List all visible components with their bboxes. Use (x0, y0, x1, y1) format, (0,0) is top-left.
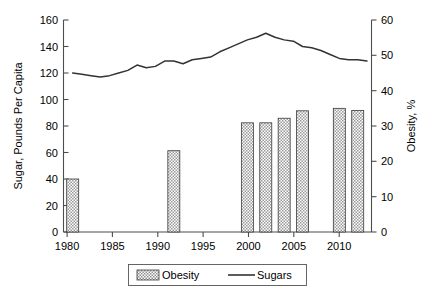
bar (297, 111, 309, 232)
bar (241, 123, 253, 232)
right-tick-label: 30 (381, 120, 393, 132)
legend-label-obesity: Obesity (162, 269, 200, 281)
bar (67, 179, 79, 232)
left-tick-label: 40 (46, 173, 58, 185)
sugar-obesity-dual-axis-chart: 0 20 40 60 80 100 120 140 160 Sugar, Pou… (0, 0, 435, 292)
x-tick-label: 2010 (327, 240, 351, 252)
left-axis-title: Sugar, Pounds Per Capita (12, 62, 24, 190)
right-tick-label: 10 (381, 191, 393, 203)
x-tick-label: 1995 (191, 240, 215, 252)
right-tick-label: 40 (381, 85, 393, 97)
x-tick-label: 1985 (100, 240, 124, 252)
left-tick-label: 140 (40, 41, 58, 53)
legend-swatch-obesity (137, 270, 159, 280)
bar (352, 110, 364, 232)
left-tick-label: 20 (46, 200, 58, 212)
x-tick-label: 1990 (146, 240, 170, 252)
right-axis-title: Obesity, % (405, 100, 417, 153)
x-tick-label: 2000 (236, 240, 260, 252)
left-tick-label: 0 (52, 226, 58, 238)
left-tick-label: 120 (40, 67, 58, 79)
x-tick-label: 1980 (55, 240, 79, 252)
bar (333, 108, 345, 232)
left-tick-label: 60 (46, 147, 58, 159)
right-tick-label: 50 (381, 49, 393, 61)
right-tick-label: 0 (381, 226, 387, 238)
left-tick-label: 160 (40, 14, 58, 26)
legend-label-sugars: Sugars (257, 269, 292, 281)
bar (260, 123, 272, 232)
left-tick-label: 80 (46, 120, 58, 132)
x-tick-label: 2005 (282, 240, 306, 252)
left-tick-label: 100 (40, 94, 58, 106)
right-tick-label: 20 (381, 155, 393, 167)
bar (168, 151, 180, 232)
chart-container: 0 20 40 60 80 100 120 140 160 Sugar, Pou… (0, 0, 435, 292)
bar (278, 118, 290, 232)
right-tick-label: 60 (381, 14, 393, 26)
